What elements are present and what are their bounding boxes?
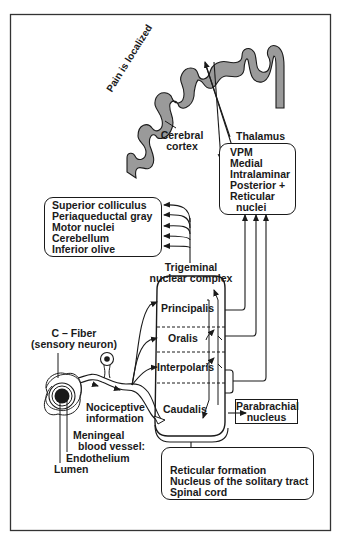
cortex-label-line2: cortex: [157, 141, 207, 152]
parabrachial-box: Parabrachial nucleus: [235, 399, 298, 424]
meningeal-vessel: [44, 373, 81, 415]
nociceptive-label: Nociceptive information: [86, 402, 145, 424]
thalamus-title: Thalamus: [236, 131, 285, 142]
c-fiber-line2: (sensory neuron): [31, 339, 117, 350]
subnucleus-interpolaris: Interpolaris: [157, 362, 214, 373]
parabrachial-line2: nucleus: [236, 412, 297, 423]
subnucleus-principalis: Principalis: [161, 303, 214, 314]
subnucleus-oralis: Oralis: [168, 333, 198, 344]
nociceptive-line2: information: [86, 413, 145, 424]
vessel-line2: blood vessel:: [73, 441, 145, 452]
brainstem-target: Inferior olive: [52, 244, 161, 255]
subnucleus-caudalis: Caudalis: [163, 404, 207, 415]
thalamus-nucleus: nuclei: [230, 202, 295, 213]
c-fiber-label: C – Fiber (sensory neuron): [31, 328, 117, 350]
lumen-label: Lumen: [54, 464, 88, 475]
brainstem-targets-box: Superior colliculus Periaqueductal gray …: [44, 197, 162, 257]
descending-targets-box: Reticular formation Nucleus of the solit…: [161, 447, 314, 500]
trigeminal-complex-title: Trigeminal nuclear complex: [148, 262, 234, 284]
descending-target: Spinal cord: [170, 487, 313, 498]
meningeal-vessel-label: Meningeal blood vessel:: [73, 430, 145, 452]
cerebral-cortex-label: Cerebral cortex: [157, 130, 207, 152]
trigeminal-title-line2: nuclear complex: [148, 273, 234, 284]
thalamus-nuclei-box: VPM Medial Intralaminar Posterior + Reti…: [219, 143, 296, 215]
